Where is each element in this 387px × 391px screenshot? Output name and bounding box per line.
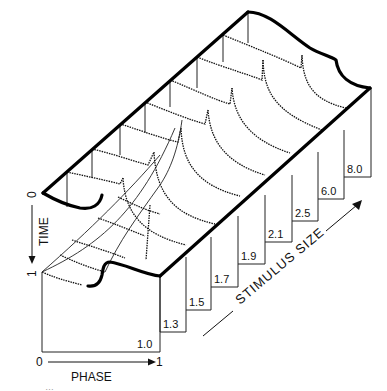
surface-frame bbox=[43, 12, 370, 286]
arrow-down-icon bbox=[29, 256, 36, 264]
stimulus-size-staircase bbox=[42, 88, 371, 352]
stimulus-size-labels: 1.0 1.3 1.5 1.7 1.9 2.1 2.5 6.0 8.0 bbox=[137, 163, 362, 350]
arrow-right-icon bbox=[148, 359, 156, 366]
time-axis: 0 TIME 1 bbox=[25, 191, 51, 277]
stimulus-label-2.1: 2.1 bbox=[268, 228, 283, 240]
stimulus-phase-time-surface-diagram: 1.0 1.3 1.5 1.7 1.9 2.1 2.5 6.0 8.0 bbox=[0, 0, 387, 391]
phase-axis-label: PHASE bbox=[71, 370, 112, 384]
phase-axis-end: 1 bbox=[156, 355, 163, 369]
stimulus-size-axis: STIMULUS SIZE bbox=[203, 200, 362, 336]
stimulus-label-6.0: 6.0 bbox=[321, 185, 336, 197]
time-axis-end: 1 bbox=[25, 270, 39, 277]
stimulus-label-1.9: 1.9 bbox=[241, 250, 256, 262]
stimulus-label-1.3: 1.3 bbox=[163, 318, 178, 330]
stimulus-label-1.0: 1.0 bbox=[137, 338, 152, 350]
stimulus-label-2.5: 2.5 bbox=[295, 207, 310, 219]
time-axis-start: 0 bbox=[25, 191, 39, 198]
phase-sweep-lines bbox=[42, 120, 182, 272]
phase-axis-start: 0 bbox=[36, 355, 43, 369]
time-axis-label: TIME bbox=[37, 217, 51, 246]
stimulus-label-1.7: 1.7 bbox=[214, 273, 229, 285]
stimulus-label-1.5: 1.5 bbox=[189, 296, 204, 308]
stimulus-label-8.0: 8.0 bbox=[347, 163, 362, 175]
phase-axis: 0 1 PHASE bbox=[36, 355, 163, 384]
figure-caption-fragment: … bbox=[45, 382, 55, 391]
